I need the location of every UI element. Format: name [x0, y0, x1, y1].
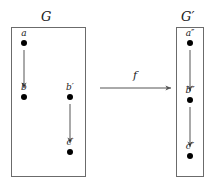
vertex-label-b-double: b″ [185, 86, 194, 95]
vertex-label-c-double: c″ [186, 142, 194, 151]
vertex-b [21, 94, 27, 100]
vertex-label-c-prime: c′ [66, 138, 73, 147]
vertex-a-double [187, 40, 193, 46]
graph-homomorphism-figure: G G′ f a b b′ c′ a″ b″ c″ [0, 0, 215, 186]
vertex-b-prime [67, 94, 73, 100]
vertex-label-b: b [21, 83, 27, 92]
vertex-label-a-double: a″ [186, 29, 195, 38]
vertex-b-double [187, 97, 193, 103]
vertex-label-b-prime: b′ [66, 83, 74, 92]
vertex-c-double [187, 153, 193, 159]
vertex-c-prime [67, 149, 73, 155]
map-arrow-label: f [133, 70, 137, 81]
vertex-label-a: a [21, 29, 26, 38]
vertex-a [21, 40, 27, 46]
edges-layer [0, 0, 215, 186]
